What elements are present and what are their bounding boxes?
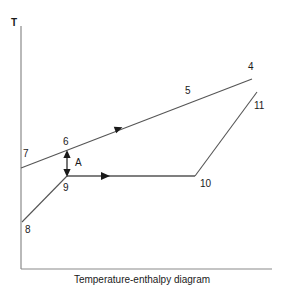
line-hot-stream-7-4 <box>21 79 252 168</box>
point-label-9: 9 <box>63 183 69 193</box>
y-axis-label: T <box>11 18 17 28</box>
point-label-7: 7 <box>23 149 29 159</box>
line-cold-stream-10-11 <box>195 92 257 176</box>
annotation-label-a: A <box>75 158 82 168</box>
arrowhead-cold-stream-right <box>101 172 110 180</box>
point-label-5: 5 <box>185 86 191 96</box>
temperature-enthalpy-figure: T 4 5 6 7 8 9 10 11 A Temperature-enthal… <box>0 0 284 295</box>
diagram-canvas <box>0 0 284 295</box>
point-label-6: 6 <box>63 137 69 147</box>
point-label-8: 8 <box>25 225 31 235</box>
point-label-10: 10 <box>200 179 211 189</box>
figure-caption: Temperature-enthalpy diagram <box>0 274 284 285</box>
point-label-4: 4 <box>248 62 254 72</box>
point-label-11: 11 <box>254 101 264 111</box>
line-cold-stream-8-9 <box>22 176 67 222</box>
